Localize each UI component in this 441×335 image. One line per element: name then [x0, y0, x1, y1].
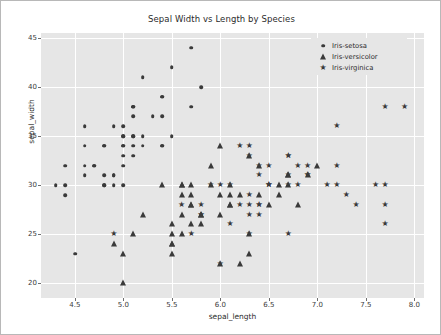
x-axis-tick-mark: [414, 298, 415, 301]
dot-marker-icon: [131, 144, 135, 148]
star-marker-icon: [245, 142, 253, 150]
legend-item-iris-setosa[interactable]: Iris-setosa: [314, 40, 404, 51]
x-axis-tick-mark: [220, 298, 221, 301]
figure-frame: Sepal Width vs Length by Species 4.55.05…: [0, 0, 441, 335]
star-marker-icon: [284, 230, 292, 238]
dot-marker-icon: [199, 85, 203, 89]
triangle-marker-icon: [188, 182, 194, 188]
x-axis-tick-mark: [317, 298, 318, 301]
triangle-marker-icon: [179, 211, 185, 217]
star-marker-icon: [236, 142, 244, 150]
dot-marker-icon: [122, 183, 126, 187]
star-marker-icon: [197, 201, 205, 209]
x-axis-tick-mark: [269, 298, 270, 301]
triangle-marker-icon: [227, 191, 233, 197]
star-marker-icon: [245, 230, 253, 238]
star-marker-icon: [333, 162, 341, 170]
x-axis-tick-label: 7.5: [360, 301, 371, 309]
y-axis-label: sepal_width: [27, 74, 36, 170]
star-marker-icon: [255, 171, 263, 179]
star-marker-icon: [323, 181, 331, 189]
triangle-marker-icon: [120, 280, 126, 286]
y-axis-tick-mark: [38, 136, 41, 137]
star-marker-icon: [294, 181, 302, 189]
triangle-marker-icon: [179, 182, 185, 188]
y-axis-tick-label: 45: [13, 34, 37, 42]
star-marker-icon: [314, 62, 332, 73]
dot-marker-icon: [112, 174, 116, 178]
dot-marker-icon: [102, 174, 106, 178]
dot-marker-icon: [122, 124, 126, 128]
x-axis-tick-label: 5.5: [166, 301, 177, 309]
triangle-marker-icon: [188, 201, 194, 207]
x-axis-tick-label: 4.5: [69, 301, 80, 309]
triangle-marker-icon: [227, 201, 233, 207]
star-marker-icon: [216, 181, 224, 189]
x-axis-tick-label: 7.0: [312, 301, 323, 309]
dot-marker-icon: [63, 164, 67, 168]
x-axis-tick-label: 8.0: [409, 301, 420, 309]
x-axis-tick-mark: [172, 298, 173, 301]
dot-marker-icon: [131, 154, 135, 158]
dot-marker-icon: [102, 144, 106, 148]
legend-item-iris-versicolor[interactable]: Iris-versicolor: [314, 51, 404, 62]
triangle-marker-icon: [320, 53, 326, 59]
chart-title: Sepal Width vs Length by Species: [5, 14, 438, 24]
star-marker-icon: [236, 201, 244, 209]
y-axis-tick-mark: [38, 283, 41, 284]
triangle-marker-icon: [179, 191, 185, 197]
dot-marker-icon: [160, 115, 164, 119]
dot-marker-icon: [83, 124, 87, 128]
triangle-marker-icon: [169, 241, 175, 247]
triangle-marker-icon: [130, 231, 136, 237]
star-marker-icon: [352, 201, 360, 209]
chart-figure: Sepal Width vs Length by Species 4.55.05…: [5, 5, 438, 332]
x-axis-tick-mark: [75, 298, 76, 301]
star-marker-icon: [110, 230, 118, 238]
dot-marker-icon: [122, 154, 126, 158]
star-marker-icon: [265, 162, 273, 170]
dot-marker-icon: [73, 252, 77, 256]
star-marker-icon: [381, 220, 389, 228]
triangle-marker-icon: [120, 250, 126, 256]
x-axis-tick-label: 5.0: [118, 301, 129, 309]
dot-marker-icon: [122, 164, 126, 168]
triangle-marker-icon: [169, 250, 175, 256]
triangle-marker-icon: [314, 51, 332, 62]
star-marker-icon: [294, 162, 302, 170]
star-marker-icon: [304, 162, 312, 170]
triangle-marker-icon: [237, 191, 243, 197]
triangle-marker-icon: [188, 221, 194, 227]
dot-marker-icon: [112, 183, 116, 187]
x-axis-tick-label: 6.0: [215, 301, 226, 309]
star-marker-icon: [245, 152, 253, 160]
triangle-marker-icon: [295, 201, 301, 207]
legend-item-label: Iris-virginica: [332, 64, 373, 72]
y-axis-tick-mark: [38, 38, 41, 39]
triangle-marker-icon: [314, 162, 320, 168]
dot-marker-icon: [131, 115, 135, 119]
star-marker-icon: [319, 64, 327, 72]
dot-marker-icon: [160, 95, 164, 99]
star-marker-icon: [178, 201, 186, 209]
triangle-marker-icon: [198, 221, 204, 227]
star-marker-icon: [245, 201, 253, 209]
legend-item-label: Iris-versicolor: [332, 53, 378, 61]
star-marker-icon: [304, 171, 312, 179]
dot-marker-icon: [122, 134, 126, 138]
dot-marker-icon: [131, 134, 135, 138]
star-marker-icon: [187, 230, 195, 238]
star-marker-icon: [372, 181, 380, 189]
dot-marker-icon: [63, 193, 67, 197]
triangle-marker-icon: [266, 201, 272, 207]
dot-marker-icon: [151, 115, 155, 119]
star-marker-icon: [284, 181, 292, 189]
dot-marker-icon: [131, 105, 135, 109]
triangle-marker-icon: [169, 221, 175, 227]
dot-marker-icon: [141, 75, 145, 79]
star-marker-icon: [255, 201, 263, 209]
star-marker-icon: [255, 162, 263, 170]
dot-marker-icon: [170, 134, 174, 138]
legend-item-iris-virginica[interactable]: Iris-virginica: [314, 62, 404, 73]
triangle-marker-icon: [111, 241, 117, 247]
